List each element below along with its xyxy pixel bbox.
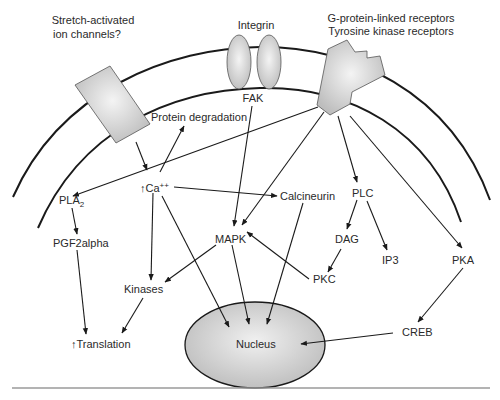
label-mapk: MAPK	[215, 233, 246, 245]
label-fak: FAK	[243, 92, 264, 104]
label-translation: ↑Translation	[71, 338, 131, 350]
arrow-ca-to-nucleus	[162, 196, 229, 327]
membrane-outer	[13, 47, 490, 200]
arrow-stretch-to-ca	[136, 142, 147, 170]
label-plc: PLC	[352, 187, 373, 199]
label-rtk: Tyrosine kinase receptors	[328, 25, 453, 37]
arrow-pkc-to-mapk	[247, 232, 309, 279]
label-ip3: IP3	[382, 254, 399, 266]
arrow-pgf-to-translation	[77, 250, 86, 334]
integrin-right-shape	[257, 35, 281, 89]
label-protein-degradation: Protein degradation	[151, 111, 247, 123]
arrow-plc-to-ip3	[367, 201, 387, 250]
arrow-receptor-to-pka	[350, 116, 462, 248]
arrow-ca-to-protdeg	[160, 126, 184, 172]
label-kinases: Kinases	[124, 283, 163, 295]
label-gpcr: G-protein-linked receptors	[327, 12, 454, 24]
label-integrin: Integrin	[238, 19, 275, 31]
arrow-receptor-to-plc	[338, 116, 357, 182]
label-creb: CREB	[402, 326, 433, 338]
label-stretch-2: ion channels?	[53, 28, 121, 40]
label-pla2: PLA2	[59, 194, 84, 211]
label-pgf2alpha: PGF2alpha	[53, 237, 109, 249]
arrow-kinases-to-translation	[122, 298, 143, 333]
label-pka: PKA	[452, 254, 474, 266]
arrow-ca-to-calcineurin	[174, 187, 277, 196]
arrow-dag-to-pkc	[328, 249, 341, 272]
arrow-receptor-to-mapk	[242, 112, 324, 225]
arrow-pla2-to-pgf	[72, 208, 77, 234]
label-pkc: PKC	[313, 273, 336, 285]
arrow-pka-to-creb	[418, 268, 463, 322]
arrow-fak-to-mapk	[234, 106, 252, 226]
arrow-ca-to-kinases	[151, 193, 153, 280]
label-stretch-1: Stretch-activated	[52, 14, 135, 26]
integrin-left-shape	[227, 35, 251, 89]
arrow-plc-to-dag	[347, 200, 357, 229]
label-ca: ↑Ca++	[140, 180, 169, 194]
label-nucleus: Nucleus	[236, 338, 276, 350]
label-calcineurin: Calcineurin	[280, 190, 335, 202]
label-dag: DAG	[335, 233, 359, 245]
